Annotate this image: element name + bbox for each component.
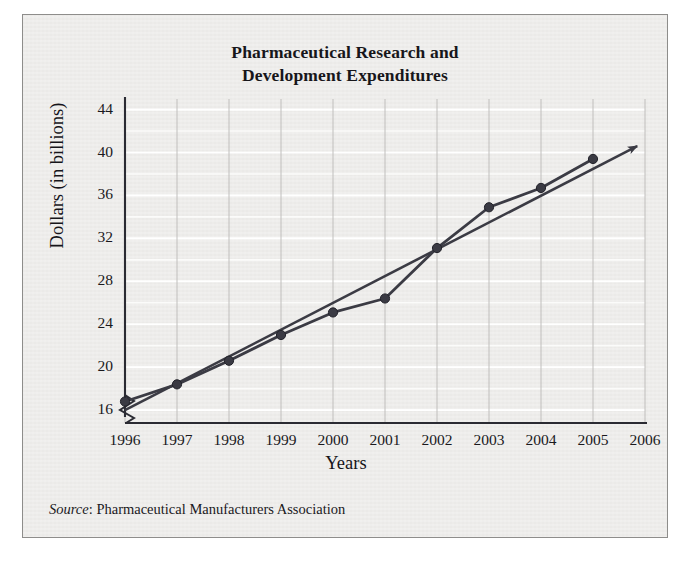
data-point-1997 [172,380,181,389]
x-tick-label-2003: 2003 [461,431,517,449]
x-tick-label-1999: 1999 [253,431,309,449]
data-point-2005 [588,154,597,163]
y-axis-title: Dollars (in billions) [47,56,68,296]
data-point-2004 [536,183,545,192]
data-point-2003 [484,203,493,212]
source-note: Source: Pharmaceutical Manufacturers Ass… [49,501,345,518]
data-point-2001 [380,294,389,303]
y-tick-label-20: 20 [63,357,113,375]
data-point-1996 [120,397,129,406]
plot-area: 1620242832364044 19961997199819992000200… [23,15,669,539]
y-tick-label-24: 24 [63,314,113,332]
y-tick-label-28: 28 [63,271,113,289]
x-tick-label-2006: 2006 [617,431,673,449]
figure-frame: Pharmaceutical Research and Development … [22,14,668,538]
trend-line [125,146,637,410]
y-tick-label-44: 44 [63,100,113,118]
data-point-1999 [276,330,285,339]
source-label: Source [49,501,89,517]
y-tick-label-16: 16 [63,400,113,418]
chart-page: Pharmaceutical Research and Development … [0,0,690,574]
y-tick-label-40: 40 [63,143,113,161]
x-tick-label-1996: 1996 [97,431,153,449]
grid-vertical [125,99,645,423]
x-tick-label-2004: 2004 [513,431,569,449]
x-tick-label-1998: 1998 [201,431,257,449]
x-tick-label-2005: 2005 [565,431,621,449]
x-tick-label-2001: 2001 [357,431,413,449]
x-tick-label-2002: 2002 [409,431,465,449]
data-point-2002 [432,243,441,252]
source-text: Pharmaceutical Manufacturers Association [96,501,345,517]
data-point-1998 [224,356,233,365]
x-tick-label-2000: 2000 [305,431,361,449]
y-tick-label-36: 36 [63,185,113,203]
x-axis-title: Years [23,453,669,474]
x-tick-label-1997: 1997 [149,431,205,449]
y-tick-label-32: 32 [63,228,113,246]
data-point-2000 [328,308,337,317]
